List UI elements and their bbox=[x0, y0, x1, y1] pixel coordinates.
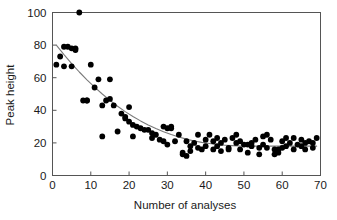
data-point bbox=[164, 142, 170, 148]
figure-container: 010203040506070 020406080100 Number of a… bbox=[0, 0, 337, 220]
data-point bbox=[226, 147, 232, 153]
data-point bbox=[268, 137, 274, 143]
y-tick-label: 60 bbox=[34, 72, 47, 84]
data-point bbox=[61, 63, 67, 69]
data-point bbox=[275, 150, 281, 156]
data-point bbox=[195, 132, 201, 138]
data-point bbox=[99, 103, 105, 109]
data-point bbox=[184, 138, 190, 144]
data-point bbox=[249, 143, 255, 149]
data-point bbox=[214, 135, 220, 141]
data-point bbox=[172, 138, 178, 144]
data-point bbox=[287, 140, 293, 146]
data-point bbox=[53, 62, 59, 68]
y-tick-label: 20 bbox=[34, 137, 47, 149]
y-tick-label: 40 bbox=[34, 104, 47, 116]
data-point bbox=[99, 133, 105, 139]
x-tick-label: 0 bbox=[49, 179, 55, 191]
data-point bbox=[57, 54, 63, 60]
data-point bbox=[253, 137, 259, 143]
data-point bbox=[73, 47, 79, 53]
x-tick-label: 70 bbox=[314, 179, 327, 191]
data-point bbox=[310, 145, 316, 151]
data-point bbox=[191, 140, 197, 146]
data-point bbox=[115, 129, 121, 135]
data-point bbox=[126, 104, 132, 110]
data-point bbox=[203, 137, 209, 143]
x-tick-label: 50 bbox=[238, 179, 251, 191]
scatter-plot: 010203040506070 020406080100 Number of a… bbox=[0, 0, 337, 220]
x-tick-label: 40 bbox=[199, 179, 212, 191]
x-tick-label: 60 bbox=[276, 179, 289, 191]
x-axis-title: Number of analyses bbox=[134, 199, 237, 211]
data-point bbox=[187, 148, 193, 154]
data-point bbox=[283, 135, 289, 141]
y-tick-label: 100 bbox=[27, 7, 46, 19]
x-tick-label: 30 bbox=[161, 179, 174, 191]
data-point bbox=[88, 62, 94, 68]
y-axis-title: Peak height bbox=[4, 64, 16, 126]
data-point bbox=[222, 137, 228, 143]
data-point bbox=[184, 153, 190, 159]
data-point bbox=[245, 150, 251, 156]
data-point bbox=[69, 63, 75, 69]
data-point bbox=[176, 132, 182, 138]
data-point bbox=[153, 132, 159, 138]
data-point bbox=[233, 132, 239, 138]
data-point bbox=[84, 98, 90, 104]
data-point bbox=[291, 135, 297, 141]
data-point bbox=[264, 132, 270, 138]
y-tick-label: 80 bbox=[34, 39, 47, 51]
data-point bbox=[76, 10, 82, 16]
data-point bbox=[207, 132, 213, 138]
data-point bbox=[256, 151, 262, 157]
data-point bbox=[264, 145, 270, 151]
y-tick-label: 0 bbox=[40, 170, 46, 182]
data-point bbox=[130, 133, 136, 139]
data-point bbox=[111, 103, 117, 109]
data-point bbox=[237, 147, 243, 153]
data-point bbox=[203, 143, 209, 149]
data-point bbox=[107, 96, 113, 102]
data-point bbox=[314, 135, 320, 141]
x-tick-label: 10 bbox=[84, 179, 97, 191]
data-point bbox=[302, 147, 308, 153]
data-point bbox=[107, 76, 113, 82]
x-tick-label: 20 bbox=[123, 179, 136, 191]
data-point bbox=[92, 85, 98, 91]
data-point bbox=[218, 148, 224, 154]
data-point bbox=[168, 124, 174, 130]
data-point bbox=[96, 76, 102, 82]
data-point bbox=[291, 147, 297, 153]
